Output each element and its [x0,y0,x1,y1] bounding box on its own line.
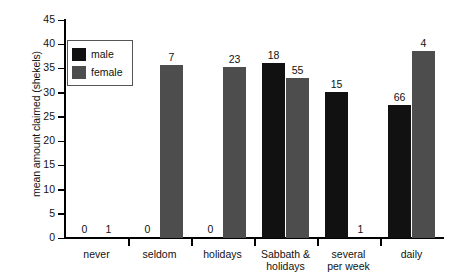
bar-value-male-4: 15 [319,79,354,90]
y-axis-tick-label: 25 [33,111,55,121]
y-axis-tick [58,116,65,118]
y-axis-tick-label: 10 [33,184,55,194]
bar-value-female-1: 7 [154,52,189,63]
y-axis-tick [58,44,65,46]
y-axis-tick [58,141,65,143]
bar-female-3 [286,78,309,238]
y-axis-tick [58,238,65,240]
bar-chart: mean amount claimed (shekels) 4540353025… [0,0,455,280]
legend-label-male: male [91,49,114,60]
bar-male-3 [262,63,285,238]
bar-value-female-3: 55 [280,65,315,76]
x-axis-tick [191,239,193,246]
y-axis-tick [58,189,65,191]
bar-female-5 [412,51,435,238]
bar-female-2 [223,67,246,238]
bar-value-male-5: 66 [382,92,417,103]
legend-swatch-male-icon [72,48,86,61]
y-axis-tick [58,68,65,70]
bar-value-female-2: 23 [217,54,252,65]
y-axis-tick-label: 45 [33,14,55,24]
y-axis-tick-label: 20 [33,135,55,145]
x-axis-category-label-3: Sabbath &holidays [254,248,317,272]
x-axis-tick [380,239,382,246]
bar-female-1 [160,65,183,238]
bar-value-female-5: 4 [406,38,441,49]
x-axis-category-label-2: holidays [191,248,254,260]
legend-swatch-female-icon [72,66,86,79]
x-axis-category-label-4: severalper week [317,248,380,272]
bar-value-male-3: 18 [256,50,291,61]
y-axis-tick-label: 35 [33,62,55,72]
y-axis-tick-label: 30 [33,87,55,97]
bar-male-5 [388,105,411,238]
y-axis-tick [58,165,65,167]
legend-item-male: male [72,45,128,63]
y-axis-tick-label: 15 [33,159,55,169]
y-axis-tick [58,20,65,22]
y-axis-tick-label: 0 [33,232,55,242]
bar-value-female-0: 1 [91,224,126,235]
legend-item-female: female [72,63,128,81]
y-axis-tick [58,213,65,215]
bar-male-4 [325,92,348,238]
bar-value-male-1: 0 [130,224,165,235]
x-axis-category-label-1: seldom [128,248,191,260]
x-axis-category-label-0: never [65,248,128,260]
bar-value-female-4: 1 [343,224,378,235]
x-axis-tick [254,239,256,246]
legend-label-female: female [91,67,123,78]
y-axis-tick [58,92,65,94]
bar-value-male-2: 0 [193,224,228,235]
legend: male female [67,40,133,86]
y-axis-tick-label: 40 [33,38,55,48]
x-axis-tick [128,239,130,246]
x-axis-tick [317,239,319,246]
x-axis-category-label-5: daily [380,248,443,260]
y-axis-tick-label: 5 [33,208,55,218]
